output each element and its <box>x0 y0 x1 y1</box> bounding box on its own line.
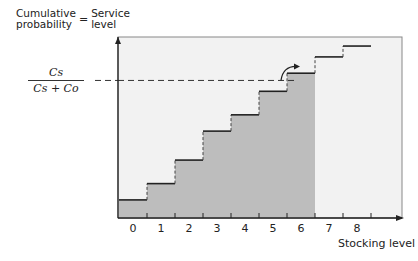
x-tick-label: 3 <box>207 222 227 235</box>
x-tick-label: 0 <box>123 222 143 235</box>
x-tick-label: 6 <box>291 222 311 235</box>
x-tick-label: 5 <box>263 222 283 235</box>
x-tick-label: 1 <box>151 222 171 235</box>
x-tick-label: 8 <box>347 222 367 235</box>
x-tick-label: 4 <box>235 222 255 235</box>
x-tick-label: 2 <box>179 222 199 235</box>
x-axis-label: Stocking level <box>338 237 415 250</box>
x-tick-label: 7 <box>319 222 339 235</box>
